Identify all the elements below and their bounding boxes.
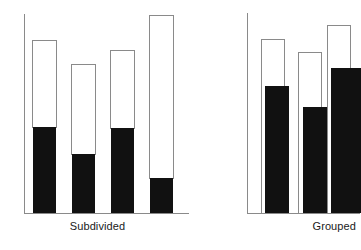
panel-grouped: Grouped xyxy=(195,0,360,250)
x-axis-subdivided xyxy=(24,213,189,214)
bar-segment-upper xyxy=(71,64,96,155)
y-axis-grouped xyxy=(247,13,248,214)
plot-area-subdivided xyxy=(0,0,195,250)
bar-solid-black xyxy=(331,68,361,213)
bar-segment-upper xyxy=(110,50,135,129)
bar-segment-lower xyxy=(72,154,95,213)
bar-segment-lower xyxy=(111,128,134,213)
bar-segment-upper xyxy=(149,15,174,179)
plot-area-grouped xyxy=(195,0,360,250)
panel-label-grouped: Grouped xyxy=(195,220,360,232)
panel-subdivided: Subdivided xyxy=(0,0,195,250)
panel-label-subdivided: Subdivided xyxy=(0,220,195,232)
bar-solid-black xyxy=(265,86,289,213)
bar-segment-lower xyxy=(33,127,56,213)
bar-solid-black xyxy=(303,107,327,213)
bar-segment-lower xyxy=(150,178,173,213)
bar-segment-upper xyxy=(32,40,57,128)
y-axis-subdivided xyxy=(24,14,25,214)
